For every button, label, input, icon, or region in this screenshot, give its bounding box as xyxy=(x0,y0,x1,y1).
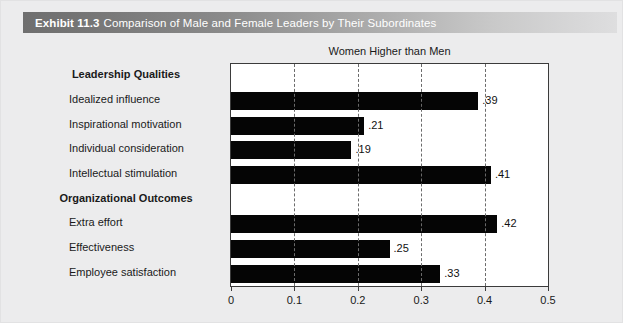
bar xyxy=(231,240,390,258)
gridline xyxy=(421,64,422,286)
exhibit-title: Comparison of Male and Female Leaders by… xyxy=(103,17,436,29)
axis-tick-mark xyxy=(294,286,295,291)
axis-tick-mark xyxy=(421,286,422,291)
gridline xyxy=(358,64,359,286)
axis-tick-label: 0.3 xyxy=(414,294,429,306)
bar-value-label: .33 xyxy=(444,267,459,279)
gridline xyxy=(485,64,486,286)
axis-tick-label: 0.4 xyxy=(477,294,492,306)
category-label: Extra effort xyxy=(69,216,123,228)
axis-tick-mark xyxy=(231,286,232,291)
chart-title: Women Higher than Men xyxy=(230,45,549,57)
category-label: Inspirational motivation xyxy=(69,118,182,130)
bar xyxy=(231,166,491,184)
bar-value-label: .41 xyxy=(495,168,510,180)
category-label: Intellectual stimulation xyxy=(69,167,177,179)
category-group-label: Leadership Qualities xyxy=(31,68,221,80)
bar xyxy=(231,117,364,135)
category-label: Employee satisfaction xyxy=(69,266,176,278)
bar xyxy=(231,141,351,159)
axis-tick-label: 0.2 xyxy=(350,294,365,306)
category-label: Idealized influence xyxy=(69,93,160,105)
exhibit-number: Exhibit 11.3 xyxy=(35,17,99,29)
bar-value-label: .42 xyxy=(501,217,516,229)
bar xyxy=(231,265,440,283)
bar xyxy=(231,92,478,110)
gridline xyxy=(294,64,295,286)
exhibit-header-bar: Exhibit 11.3 Comparison of Male and Fema… xyxy=(23,12,617,33)
exhibit-figure: Exhibit 11.3 Comparison of Male and Fema… xyxy=(0,0,623,323)
axis-tick-label: 0.1 xyxy=(287,294,302,306)
bar xyxy=(231,215,497,233)
category-label-column: Leadership QualitiesIdealized influenceI… xyxy=(31,63,221,287)
axis-tick-mark xyxy=(358,286,359,291)
axis-tick-mark xyxy=(548,286,549,291)
category-group-label: Organizational Outcomes xyxy=(31,192,221,204)
axis-tick-label: 0 xyxy=(228,294,234,306)
category-label: Individual consideration xyxy=(69,142,184,154)
category-label: Effectiveness xyxy=(69,241,134,253)
axis-tick-mark xyxy=(485,286,486,291)
plot-area: .39.21.19.41.42.25.33 xyxy=(230,63,549,287)
bar-value-label: .21 xyxy=(368,119,383,131)
bar-value-label: .25 xyxy=(394,242,409,254)
axis-tick-label: 0.5 xyxy=(540,294,555,306)
